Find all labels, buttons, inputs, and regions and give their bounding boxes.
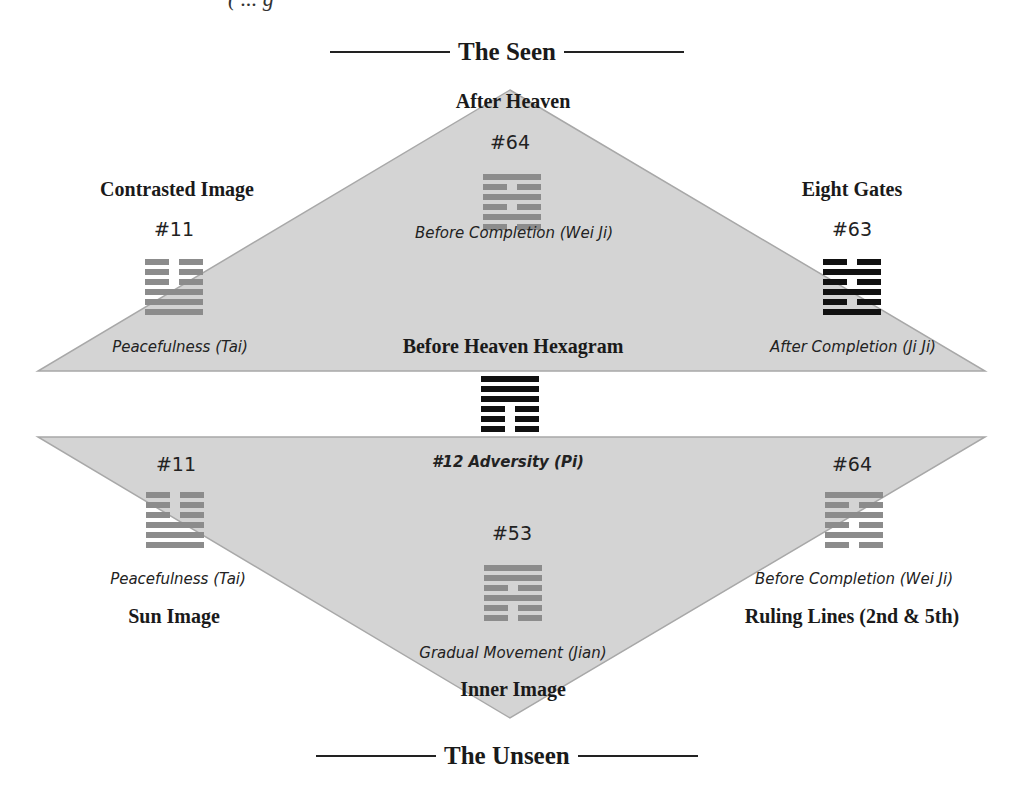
line-segment (859, 502, 883, 508)
hexagram-line-solid (484, 575, 542, 581)
line-segment (484, 615, 508, 621)
hexagram-line-broken (145, 259, 203, 265)
line-segment (179, 269, 203, 275)
line-segment (823, 309, 881, 315)
hexagram-64-lower (825, 492, 883, 548)
hexagram-line-solid (823, 289, 881, 295)
top-cropped-text: ( ... g (228, 0, 274, 12)
line-segment (825, 532, 883, 538)
heading-text: The Unseen (444, 742, 570, 770)
line-segment (481, 376, 539, 382)
line-segment (145, 279, 169, 285)
hexagram-line-broken (146, 492, 204, 498)
hexagram-line-solid (484, 565, 542, 571)
hexagram-line-broken (481, 426, 539, 432)
heading-text: The Seen (458, 38, 556, 66)
line-segment (825, 522, 849, 528)
hexagram-line-solid (825, 532, 883, 538)
before-heaven-hexagram-label: Before Heaven Hexagram (403, 335, 624, 358)
hexagram-line-solid (483, 174, 541, 180)
line-segment (483, 214, 541, 220)
line-segment (146, 532, 204, 538)
line-segment (518, 615, 542, 621)
hexagram-line-solid (483, 214, 541, 220)
hexagram-line-broken (823, 279, 881, 285)
line-segment (518, 605, 542, 611)
lower-center-name: Gradual Movement (Jian) (419, 644, 606, 662)
line-segment (484, 585, 508, 591)
line-segment (483, 204, 507, 210)
line-segment (146, 492, 170, 498)
line-segment (179, 259, 203, 265)
hexagram-line-solid (823, 269, 881, 275)
after-heaven-label: After Heaven (456, 90, 571, 113)
line-segment (146, 542, 204, 548)
adversity-label: #12 Adversity (Pi) (432, 453, 584, 471)
hexagram-line-broken (483, 184, 541, 190)
line-segment (823, 279, 847, 285)
line-segment (483, 174, 541, 180)
heading-the-unseen: The Unseen (308, 742, 706, 770)
line-segment (825, 502, 849, 508)
line-segment (145, 309, 203, 315)
line-segment (823, 259, 847, 265)
line-segment (518, 585, 542, 591)
hexagram-line-solid (145, 289, 203, 295)
hexagram-line-solid (483, 194, 541, 200)
line-segment (481, 426, 505, 432)
hexagram-line-broken (484, 585, 542, 591)
line-segment (145, 299, 203, 305)
line-segment (484, 575, 542, 581)
line-segment (483, 194, 541, 200)
line-segment (823, 289, 881, 295)
hexagram-line-broken (483, 204, 541, 210)
eight-gates-label: Eight Gates (802, 178, 903, 201)
hexagram-line-solid (146, 532, 204, 538)
hexagram-line-solid (825, 512, 883, 518)
upper-center-name: Before Completion (Wei Ji) (415, 224, 613, 242)
hexagram-line-broken (146, 502, 204, 508)
contrasted-image-label: Contrasted Image (100, 178, 254, 201)
rule-left (316, 755, 436, 757)
hexagram-line-broken (823, 259, 881, 265)
hexagram-53 (484, 565, 542, 621)
hexagram-11-lower (146, 492, 204, 548)
ruling-lines-label: Ruling Lines (2nd & 5th) (745, 605, 960, 628)
hexagram-line-broken (484, 615, 542, 621)
line-segment (146, 502, 170, 508)
inner-image-label: Inner Image (460, 678, 566, 701)
hexagram-line-broken (146, 512, 204, 518)
line-segment (180, 512, 204, 518)
hexagram-line-broken (823, 299, 881, 305)
lower-right-number: #64 (832, 453, 872, 475)
hexagram-64-upper (483, 174, 541, 230)
hexagram-line-solid (145, 309, 203, 315)
line-segment (481, 406, 505, 412)
line-segment (483, 184, 507, 190)
line-segment (515, 406, 539, 412)
heading-the-seen: The Seen (322, 38, 692, 66)
rule-right (578, 755, 698, 757)
hexagram-line-broken (825, 522, 883, 528)
line-segment (517, 184, 541, 190)
line-segment (145, 259, 169, 265)
hexagram-line-broken (481, 406, 539, 412)
upper-right-number: #63 (832, 218, 872, 240)
upper-center-number: #64 (490, 131, 530, 153)
hexagram-12 (481, 376, 539, 432)
line-segment (859, 542, 883, 548)
hexagram-line-broken (825, 542, 883, 548)
line-segment (515, 426, 539, 432)
line-segment (146, 512, 170, 518)
sun-image-label: Sun Image (128, 605, 220, 628)
line-segment (823, 299, 847, 305)
hexagram-line-solid (146, 542, 204, 548)
line-segment (481, 416, 505, 422)
line-segment (180, 492, 204, 498)
rule-left (330, 51, 450, 53)
line-segment (481, 396, 539, 402)
line-segment (484, 595, 542, 601)
hexagram-line-solid (481, 386, 539, 392)
lower-right-name: Before Completion (Wei Ji) (755, 570, 953, 588)
upper-left-name: Peacefulness (Tai) (112, 338, 248, 356)
